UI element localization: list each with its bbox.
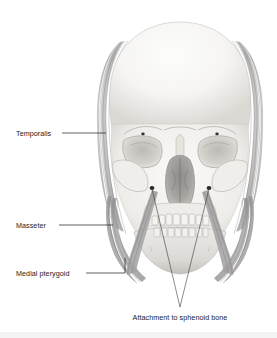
skull-illustration: Temporalis Masseter Medial pterygoid Att… — [0, 0, 277, 338]
supraorbital-foramen-right — [215, 133, 218, 136]
supraorbital-foramen-left — [141, 133, 144, 136]
maxilla — [144, 203, 216, 226]
label-medial-pterygoid: Medial pterygoid — [16, 269, 70, 278]
label-temporalis: Temporalis — [16, 129, 52, 138]
bottom-edge-band — [0, 332, 277, 338]
label-attachment-to-sphenoid-bone: Attachment to sphenoid bone — [133, 313, 228, 322]
anatomy-figure: Temporalis Masseter Medial pterygoid Att… — [0, 0, 277, 338]
label-masseter: Masseter — [16, 221, 47, 230]
